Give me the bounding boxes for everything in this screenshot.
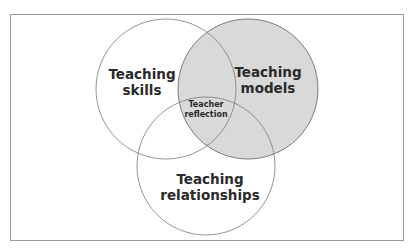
label-line: Teacher [184,100,227,110]
label-teaching-relationships: Teaching relationships [160,172,260,203]
label-line: Teaching [108,67,175,83]
label-line: models [234,81,301,97]
label-line: Teaching [234,65,301,81]
label-line: Teaching [160,172,260,188]
label-teaching-models: Teaching models [234,65,301,96]
label-line: relationships [160,188,260,204]
label-line: reflection [184,110,227,120]
label-teaching-skills: Teaching skills [108,67,175,98]
label-teacher-reflection: Teacher reflection [184,100,227,119]
venn-diagram [0,0,414,252]
label-line: skills [108,83,175,99]
